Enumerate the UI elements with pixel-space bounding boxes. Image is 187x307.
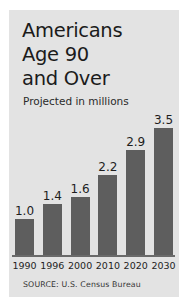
- chart-figure: Americans Age 90 and Over Projected in m…: [9, 10, 179, 297]
- bar: [71, 197, 90, 255]
- source-note: SOURCE: U.S. Census Bureau: [23, 280, 141, 290]
- x-tick-label: 2000: [67, 259, 94, 272]
- x-tick-label: 2010: [94, 259, 121, 272]
- x-tick-label: 2030: [150, 259, 177, 272]
- bar: [43, 204, 62, 255]
- bar: [15, 219, 34, 255]
- x-axis-line: [12, 255, 175, 257]
- x-tick-label: 1990: [11, 259, 38, 272]
- bar-value-label: 1.6: [71, 183, 90, 196]
- x-tick-label: 2020: [122, 259, 149, 272]
- bar: [154, 128, 173, 255]
- bar-value-label: 2.2: [98, 161, 117, 174]
- chart-subtitle: Projected in millions: [23, 95, 129, 108]
- x-tick-label: 1996: [39, 259, 66, 272]
- bar: [98, 175, 117, 255]
- bar-group: 1.6: [71, 114, 90, 255]
- chart-title: Americans Age 90 and Over: [22, 19, 174, 91]
- bar-group: 2.9: [126, 114, 145, 255]
- bar-value-label: 3.5: [154, 114, 173, 127]
- bar: [126, 150, 145, 255]
- plot-area: 1.01.41.62.22.93.5: [15, 114, 173, 255]
- bar-value-label: 1.0: [15, 205, 34, 218]
- x-axis-tick-labels: 199019962000201020202030: [15, 259, 173, 273]
- bar-value-label: 1.4: [43, 190, 62, 203]
- bar-value-label: 2.9: [126, 136, 145, 149]
- bar-group: 2.2: [98, 114, 117, 255]
- bar-group: 1.0: [15, 114, 34, 255]
- bar-group: 1.4: [43, 114, 62, 255]
- bar-group: 3.5: [154, 114, 173, 255]
